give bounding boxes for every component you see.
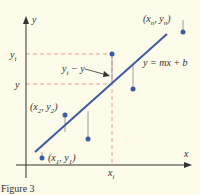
data-point-5 — [131, 87, 136, 92]
line-equation-label: y = mx + b — [142, 57, 188, 68]
yi-tick-label: yi — [9, 49, 16, 63]
xi-tick-label: xi — [107, 167, 114, 181]
y-axis-arrow-icon — [23, 16, 29, 24]
point-label-2: (x2, y2) — [30, 101, 58, 115]
data-point-n — [181, 30, 186, 35]
residual-label: yi − y — [61, 63, 85, 77]
data-point-i — [110, 52, 115, 57]
y-tick-label: y — [14, 79, 20, 90]
x-axis-label: x — [183, 148, 189, 159]
point-label-1: (x1, y1) — [48, 152, 76, 166]
data-point-1 — [40, 156, 45, 161]
data-point-3 — [86, 137, 91, 142]
x-axis-arrow-icon — [184, 162, 192, 168]
regression-diagram: y x yi y xi yi − y y = mx + b (x1, y1) (… — [0, 0, 200, 195]
residual-arrow-head-icon — [103, 71, 110, 77]
point-label-n: (xn, yn) — [143, 13, 171, 27]
data-point-2 — [63, 113, 68, 118]
y-axis-label: y — [31, 14, 37, 25]
regression-line — [35, 34, 167, 152]
figure-caption: Figure 3 — [1, 183, 35, 194]
